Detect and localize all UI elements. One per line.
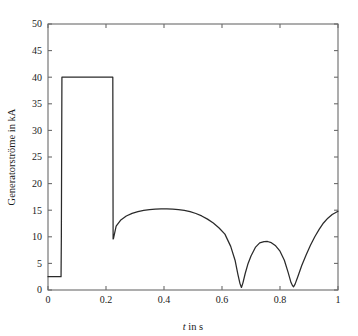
x-tick-label: 0 xyxy=(46,294,51,305)
y-tick-label: 40 xyxy=(32,72,42,83)
y-tick-label: 20 xyxy=(32,178,42,189)
y-axis-title: Generatorströme in kA xyxy=(6,108,17,205)
x-axis-title: t in s xyxy=(183,321,203,332)
chart-figure: 05101520253035404550 00.20.40.60.81 Gene… xyxy=(0,0,358,336)
y-tick-label: 0 xyxy=(37,284,42,295)
x-tick-label: 0.2 xyxy=(100,294,113,305)
plot-background xyxy=(0,0,358,336)
x-tick-label: 1 xyxy=(336,294,341,305)
x-tick-label: 0.6 xyxy=(216,294,229,305)
y-tick-label: 25 xyxy=(32,151,42,162)
x-tick-label: 0.8 xyxy=(274,294,287,305)
y-tick-label: 45 xyxy=(32,45,42,56)
y-tick-label: 15 xyxy=(32,205,42,216)
y-tick-label: 30 xyxy=(32,125,42,136)
y-tick-label: 50 xyxy=(32,18,42,29)
generator-currents-plot: 05101520253035404550 00.20.40.60.81 Gene… xyxy=(0,0,358,336)
x-tick-label: 0.4 xyxy=(158,294,171,305)
y-tick-label: 10 xyxy=(32,231,42,242)
y-tick-label: 35 xyxy=(32,98,42,109)
x-axis-title-unit: in s xyxy=(186,321,204,332)
y-tick-label: 5 xyxy=(37,258,42,269)
